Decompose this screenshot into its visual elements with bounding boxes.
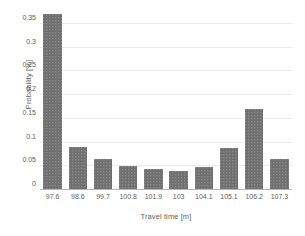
bar <box>220 148 238 189</box>
bar <box>94 159 112 189</box>
bar <box>119 166 137 189</box>
bar <box>169 171 187 189</box>
bar-slot <box>90 12 115 189</box>
y-axis-tick-label: 0.05 <box>22 156 36 163</box>
bar-slot <box>191 12 216 189</box>
x-axis-tick-labels: 97.698.699.7100.8101.9103104.1105.1106.2… <box>40 193 292 200</box>
x-axis-title: Travel time [m] <box>40 212 292 221</box>
bar-slot <box>141 12 166 189</box>
bar-slot <box>40 12 65 189</box>
y-axis-tick-label: 0.35 <box>22 13 36 20</box>
bar <box>270 159 288 189</box>
plot-area: 00.050.10.150.20.250.30.35 <box>40 12 292 190</box>
bar <box>195 167 213 189</box>
bar-slot <box>116 12 141 189</box>
y-axis-tick-label: 0.3 <box>26 37 36 44</box>
x-axis-tick-label: 105.1 <box>216 193 241 200</box>
bar <box>43 14 61 189</box>
x-axis-tick-label: 97.6 <box>40 193 65 200</box>
x-axis-tick-label: 106.2 <box>242 193 267 200</box>
histogram-figure: Probability [%] 00.050.10.150.20.250.30.… <box>0 0 305 236</box>
x-axis-tick-label: 100.8 <box>116 193 141 200</box>
bar-slot <box>65 12 90 189</box>
x-axis-tick-label: 101.9 <box>141 193 166 200</box>
y-axis-tick-label: 0.2 <box>26 85 36 92</box>
x-axis-tick-label: 99.7 <box>90 193 115 200</box>
bar-slot <box>242 12 267 189</box>
bar <box>144 169 162 189</box>
y-axis-tick-label: 0.15 <box>22 108 36 115</box>
y-axis-tick-label: 0.1 <box>26 132 36 139</box>
bar <box>69 147 87 189</box>
bar-slot <box>216 12 241 189</box>
y-axis-tick-label: 0.25 <box>22 61 36 68</box>
bar-slot <box>267 12 292 189</box>
x-axis-tick-label: 104.1 <box>191 193 216 200</box>
x-axis-tick-label: 107.3 <box>267 193 292 200</box>
bar-series <box>40 12 292 189</box>
y-axis-tick-label: 0 <box>32 180 36 187</box>
bar <box>245 109 263 189</box>
x-axis-line <box>40 189 292 190</box>
x-axis-tick-label: 103 <box>166 193 191 200</box>
x-axis-tick-label: 98.6 <box>65 193 90 200</box>
bar-slot <box>166 12 191 189</box>
